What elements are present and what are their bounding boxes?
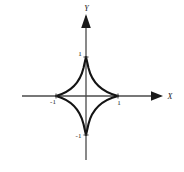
tick-label-x-negative-one: -1 — [50, 98, 56, 106]
y-axis-arrow-icon — [81, 14, 91, 28]
tick-label-x-positive-one: 1 — [117, 99, 121, 107]
plot-canvas: X Y -1 1 1 -1 — [0, 0, 184, 172]
astroid-figure: X Y -1 1 1 -1 — [0, 0, 184, 172]
x-axis-arrow-icon — [151, 91, 163, 101]
x-axis-label: X — [167, 92, 174, 101]
tick-label-y-positive-one: 1 — [78, 50, 82, 58]
y-axis-label: Y — [84, 4, 90, 13]
tick-label-y-negative-one: -1 — [76, 132, 82, 140]
